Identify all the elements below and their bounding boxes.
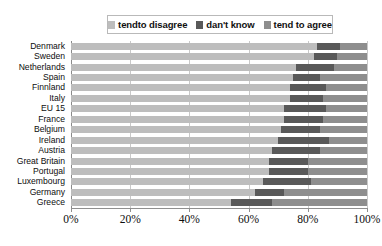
segment-tendto-disagree [71, 95, 290, 102]
y-axis-label: Netherlands [19, 63, 65, 72]
segment-dont-know [269, 158, 307, 165]
chart-bar-row [71, 199, 367, 206]
chart-bar-row [71, 84, 367, 91]
y-axis-label: Portugal [33, 167, 65, 176]
chart-bar-row [71, 43, 367, 50]
y-axis-label: Ireland [39, 136, 65, 145]
tick-mark [130, 208, 131, 212]
legend-swatch-tendto-disagree [108, 21, 115, 29]
y-axis-label: Great Britain [17, 157, 65, 166]
chart-bar-row [71, 64, 367, 71]
segment-dont-know [314, 53, 338, 60]
chart-bar-row [71, 95, 367, 102]
legend-label-dont-know: dan't know [206, 20, 254, 30]
segment-tendto-disagree [71, 158, 269, 165]
chart-bar-row [71, 147, 367, 154]
tick-mark [308, 208, 309, 212]
segment-tendto-disagree [71, 43, 317, 50]
segment-tend-to-agree [323, 95, 367, 102]
chart-x-axis-labels: 0%20%40%60%80%100% [0, 213, 382, 229]
y-axis-label: Greece [37, 198, 65, 207]
segment-dont-know [290, 84, 326, 91]
x-axis-label: 60% [238, 213, 259, 225]
legend-item-tendto-disagree: tendto disagree [108, 20, 187, 30]
y-axis-label: Luxembourg [17, 177, 65, 186]
chart-bar-row [71, 137, 367, 144]
chart-bar-row [71, 189, 367, 196]
legend-swatch-tend-to-agree [264, 21, 271, 29]
chart-bar-row [71, 53, 367, 60]
tick-mark [249, 208, 250, 212]
segment-tendto-disagree [71, 74, 293, 81]
segment-tendto-disagree [71, 137, 278, 144]
segment-tend-to-agree [320, 74, 367, 81]
segment-tend-to-agree [334, 64, 367, 71]
legend-label-tendto-disagree: tendto disagree [118, 20, 187, 30]
gridline [367, 41, 368, 208]
y-axis-label: Belgium [34, 125, 65, 134]
segment-tendto-disagree [71, 199, 231, 206]
chart-bar-row [71, 74, 367, 81]
segment-tend-to-agree [320, 147, 367, 154]
tick-mark [367, 208, 368, 212]
tick-mark [71, 208, 72, 212]
segment-dont-know [290, 95, 323, 102]
chart-x-axis-line [71, 208, 368, 209]
chart-bar-row [71, 178, 367, 185]
x-axis-label: 40% [179, 213, 200, 225]
chart-bar-row [71, 105, 367, 112]
segment-tendto-disagree [71, 64, 296, 71]
legend-item-dont-know: dan't know [196, 20, 254, 30]
chart-bar-row [71, 126, 367, 133]
x-axis-label: 0% [63, 213, 78, 225]
chart-title-area [0, 0, 382, 12]
segment-tendto-disagree [71, 84, 290, 91]
legend-item-tend-to-agree: tend to agree [264, 20, 332, 30]
segment-dont-know [269, 168, 307, 175]
segment-tend-to-agree [329, 137, 367, 144]
segment-tend-to-agree [272, 199, 367, 206]
segment-tend-to-agree [320, 126, 367, 133]
y-axis-label: Spain [43, 73, 65, 82]
segment-tendto-disagree [71, 126, 281, 133]
y-axis-label: Germany [30, 188, 65, 197]
legend-label-tend-to-agree: tend to agree [274, 20, 332, 30]
segment-dont-know [278, 137, 328, 144]
legend-swatch-dont-know [196, 21, 203, 29]
y-axis-label: Denmark [30, 42, 65, 51]
segment-dont-know [284, 116, 322, 123]
x-axis-label: 100% [354, 213, 381, 225]
chart-y-axis-labels: DenmarkSwedenNetherlandsSpainFinnlandIta… [0, 41, 68, 208]
chart-bar-row [71, 116, 367, 123]
segment-dont-know [231, 199, 272, 206]
segment-tend-to-agree [308, 168, 367, 175]
segment-dont-know [263, 178, 310, 185]
y-axis-label: Finnland [32, 83, 65, 92]
segment-tend-to-agree [284, 189, 367, 196]
segment-tendto-disagree [71, 53, 314, 60]
segment-tendto-disagree [71, 189, 255, 196]
segment-tend-to-agree [340, 43, 367, 50]
segment-tendto-disagree [71, 168, 269, 175]
segment-tend-to-agree [337, 53, 367, 60]
segment-tend-to-agree [323, 116, 367, 123]
stacked-bar-chart: tendto disagree dan't know tend to agree… [0, 0, 382, 246]
y-axis-label: Sweden [34, 52, 65, 61]
segment-dont-know [317, 43, 341, 50]
segment-dont-know [293, 74, 320, 81]
segment-tend-to-agree [326, 84, 367, 91]
x-axis-label: 20% [120, 213, 141, 225]
segment-dont-know [281, 126, 319, 133]
chart-bar-row [71, 158, 367, 165]
segment-dont-know [272, 147, 319, 154]
y-axis-label: France [38, 115, 65, 124]
segment-tend-to-agree [311, 178, 367, 185]
chart-plot-area [71, 41, 367, 208]
y-axis-label: EU 15 [41, 104, 65, 113]
chart-legend: tendto disagree dan't know tend to agree [107, 15, 333, 34]
segment-tendto-disagree [71, 147, 272, 154]
chart-bar-row [71, 168, 367, 175]
segment-dont-know [296, 64, 334, 71]
segment-tend-to-agree [326, 105, 367, 112]
segment-tendto-disagree [71, 105, 284, 112]
